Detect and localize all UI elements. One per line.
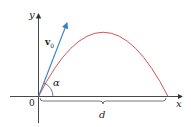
velocity-label: v0	[45, 38, 54, 49]
y-axis-label: y	[29, 10, 35, 20]
distance-label: d	[99, 110, 105, 120]
angle-label: α	[53, 78, 60, 88]
x-axis-label: x	[176, 99, 182, 109]
distance-brace	[40, 98, 166, 104]
angle-arc	[44, 83, 53, 97]
velocity-subscript: 0	[50, 42, 54, 49]
origin-label: 0	[29, 99, 35, 108]
